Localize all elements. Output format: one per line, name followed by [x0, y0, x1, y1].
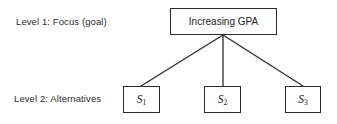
- level-1-label: Level 1: Focus (goal): [16, 16, 107, 27]
- alternative-s2-text: S2: [218, 93, 228, 107]
- goal-node-text: Increasing GPA: [189, 16, 258, 27]
- alternative-node-s1: S1: [123, 86, 160, 113]
- goal-node: Increasing GPA: [170, 8, 277, 35]
- alternative-node-s3: S3: [285, 86, 321, 113]
- alternative-subscript: 3: [304, 98, 308, 107]
- edge-goal-to-s1: [141, 35, 223, 86]
- alternative-subscript: 2: [224, 98, 228, 107]
- level-2-label: Level 2: Alternatives: [14, 93, 101, 104]
- alternative-s1-text: S1: [137, 93, 147, 107]
- alternative-subscript: 1: [143, 98, 147, 107]
- alternative-node-s2: S2: [204, 86, 241, 113]
- ahp-hierarchy-diagram: Level 1: Focus (goal) Increasing GPA Lev…: [0, 0, 337, 124]
- edge-goal-to-s3: [223, 35, 303, 86]
- alternative-s3-text: S3: [298, 93, 308, 107]
